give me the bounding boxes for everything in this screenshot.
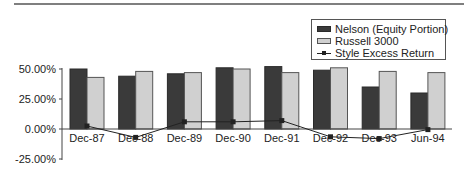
y-axis-labels: 50.00%25.00%0.00%-25.00% — [15, 63, 56, 165]
nelson-bar — [362, 87, 379, 129]
y-tick-label: 50.00% — [19, 63, 57, 75]
nelson-bar — [119, 76, 136, 129]
nelson-bar — [265, 67, 282, 129]
y-tick-label: 0.00% — [25, 123, 56, 135]
data-marker-icon — [182, 119, 187, 124]
y-tick-label: -25.00% — [15, 153, 56, 165]
data-marker-icon — [231, 119, 236, 124]
y-tick-label: 25.00% — [19, 93, 57, 105]
x-tick-label: Dec-92 — [313, 132, 348, 144]
x-tick-label: Dec-91 — [264, 132, 299, 144]
x-tick-label: Dec-89 — [167, 132, 202, 144]
legend-item-style-excess: Style Excess Return — [317, 46, 434, 59]
russell-bar — [282, 73, 299, 129]
legend-label: Russell 3000 — [335, 35, 399, 47]
nelson-bar — [411, 93, 428, 129]
x-tick-label: Dec-90 — [215, 132, 250, 144]
chart-legend: Nelson (Equity Portion) Russell 3000 Sty… — [311, 19, 446, 60]
nelson-bar — [167, 74, 184, 129]
nelson-swatch-icon — [317, 26, 331, 32]
russell-bar — [379, 71, 396, 129]
x-tick-label: Jun-94 — [411, 132, 445, 144]
russell-bar — [184, 73, 201, 129]
legend-label: Nelson (Equity Portion) — [335, 23, 448, 35]
x-tick-label: Dec-88 — [118, 132, 153, 144]
russell-bar — [136, 71, 153, 129]
nelson-bar — [70, 69, 87, 129]
nelson-bar — [314, 70, 331, 129]
data-marker-icon — [279, 118, 284, 123]
russell-bar — [428, 73, 445, 129]
russell-swatch-icon — [317, 38, 331, 44]
bars-group — [70, 67, 445, 129]
nelson-bar — [216, 68, 233, 129]
x-axis-labels: Dec-87Dec-88Dec-89Dec-90Dec-91Dec-92Dec-… — [69, 132, 444, 144]
russell-bar — [233, 69, 250, 129]
x-tick-label: Dec-93 — [361, 132, 396, 144]
x-tick-label: Dec-87 — [69, 132, 104, 144]
data-marker-icon — [85, 124, 90, 129]
russell-bar — [331, 68, 348, 129]
russell-bar — [87, 77, 104, 129]
line-marker-icon — [317, 50, 331, 56]
legend-label: Style Excess Return — [335, 47, 434, 59]
